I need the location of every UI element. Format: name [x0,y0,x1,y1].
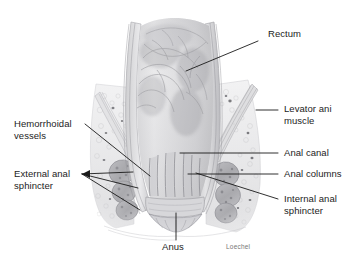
label-anal-canal: Anal canal [284,147,329,159]
label-rectum: Rectum [268,28,301,40]
label-external-anal-sphincter: External anal sphincter [14,168,70,191]
label-anal-columns: Anal columns [284,168,342,180]
artist-signature: Loechel [226,243,250,250]
label-internal-anal-sphincter: Internal anal sphincter [284,193,337,216]
label-hemorrhoidal-vessels: Hemorrhoidal vessels [14,118,72,141]
label-levator-ani-muscle: Levator ani muscle [284,103,332,126]
anatomical-illustration: Rectum Levator ani muscle Anal canal Ana… [0,0,358,264]
label-anus: Anus [162,241,184,253]
